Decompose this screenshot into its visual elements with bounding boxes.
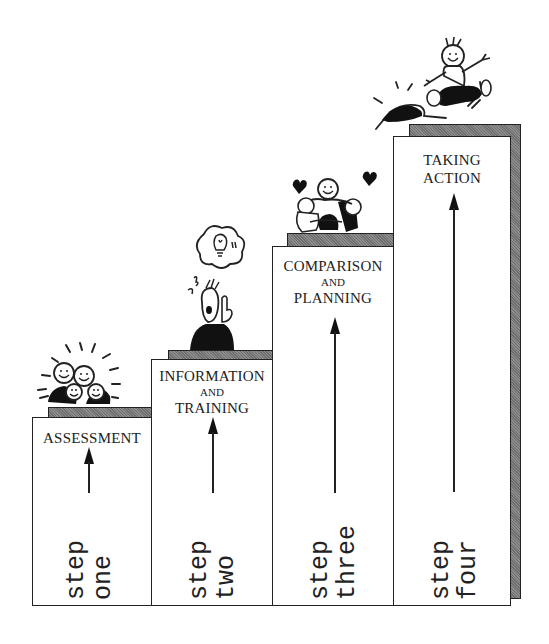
step-four-label: step four <box>428 540 482 600</box>
step-word: step <box>62 540 91 600</box>
step-ordinal: three <box>333 525 362 600</box>
person-jumping-for-joy-icon <box>368 36 508 136</box>
step-four-title: TAKING ACTION <box>394 153 510 186</box>
step-three-title: COMPARISON AND PLANNING <box>273 259 393 306</box>
step-word: step <box>306 540 335 600</box>
step-two-title-line: INFORMATION <box>152 369 272 384</box>
person-with-lightbulb-idea-icon <box>182 222 262 352</box>
step-word: step <box>427 540 456 600</box>
step-three-label: step three <box>307 525 361 600</box>
step-ordinal: two <box>212 555 241 600</box>
step-ordinal: one <box>89 555 118 600</box>
step-four-title-line: TAKING <box>394 153 510 168</box>
group-hug-with-hearts-icon <box>280 172 390 242</box>
step-three-connector: AND <box>273 277 393 288</box>
step-two-arrow <box>203 416 223 496</box>
step-two-label: step two <box>186 540 240 600</box>
step-one-title-line: ASSESSMENT <box>33 431 151 446</box>
group-of-smiling-people-icon <box>28 340 138 410</box>
step-two-title-line: TRAINING <box>152 401 272 416</box>
step-three-arrow <box>325 316 345 496</box>
step-two-connector: AND <box>152 387 272 398</box>
step-one-title: ASSESSMENT <box>33 431 151 446</box>
step-four-title-line: ACTION <box>394 171 510 186</box>
step-one-label: step one <box>63 540 117 600</box>
step-three-title-line: COMPARISON <box>273 259 393 274</box>
step-four-arrow <box>444 192 464 492</box>
step-three-title-line: PLANNING <box>273 291 393 306</box>
step-ordinal: four <box>454 540 483 600</box>
step-one-arrow <box>79 446 99 496</box>
step-two-title: INFORMATION AND TRAINING <box>152 369 272 416</box>
step-word: step <box>185 540 214 600</box>
